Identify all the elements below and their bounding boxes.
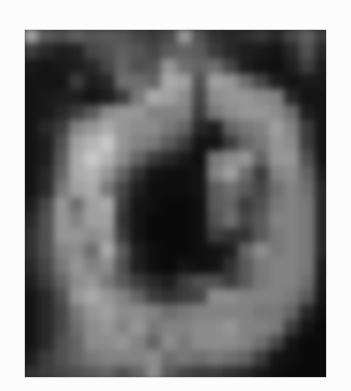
pixel-cell <box>315 89 327 104</box>
pixel-cell <box>130 335 145 350</box>
pixel-cell <box>315 289 327 304</box>
pixel-cell <box>284 181 299 196</box>
pixel-cell <box>84 197 99 212</box>
pixel-cell <box>315 29 327 43</box>
pixel-cell <box>84 29 99 43</box>
pixel-cell <box>284 105 299 120</box>
pixel-cell <box>238 350 253 365</box>
pixel-cell <box>177 243 192 258</box>
pixel-cell <box>130 105 145 120</box>
pixel-cell <box>54 135 69 150</box>
pixel-cell <box>207 243 222 258</box>
pixel-cell <box>146 258 161 273</box>
pixel-cell <box>177 335 192 350</box>
pixel-cell <box>223 289 238 304</box>
pixel-cell <box>69 304 84 319</box>
pixel-cell <box>54 29 69 43</box>
pixel-cell <box>299 335 314 350</box>
pixel-cell <box>299 350 314 365</box>
pixel-cell <box>315 59 327 74</box>
pixel-cell <box>161 274 176 289</box>
pixel-cell <box>192 212 207 227</box>
pixel-cell <box>177 197 192 212</box>
pixel-cell <box>192 181 207 196</box>
pixel-cell <box>146 29 161 43</box>
pixel-cell <box>38 350 53 365</box>
pixel-cell <box>299 304 314 319</box>
pixel-cell <box>69 197 84 212</box>
pixel-cell <box>315 350 327 365</box>
pixel-cell <box>130 197 145 212</box>
pixel-cell <box>69 366 84 378</box>
pixel-cell <box>284 166 299 181</box>
pixel-cell <box>115 166 130 181</box>
pixel-cell <box>284 289 299 304</box>
pixel-cell <box>177 151 192 166</box>
pixel-cell <box>223 212 238 227</box>
pixel-cell <box>192 74 207 89</box>
pixel-cell <box>207 274 222 289</box>
pixel-cell <box>161 74 176 89</box>
pixel-cell <box>269 29 284 43</box>
pixel-cell <box>284 228 299 243</box>
pixel-cell <box>84 350 99 365</box>
pixel-cell <box>253 74 268 89</box>
pixel-cell <box>24 289 38 304</box>
pixel-cell <box>54 212 69 227</box>
pixel-cell <box>284 243 299 258</box>
pixel-cell <box>115 304 130 319</box>
pixel-cell <box>269 320 284 335</box>
pixel-cell <box>54 366 69 378</box>
pixel-cell <box>238 366 253 378</box>
pixel-cell <box>192 274 207 289</box>
pixel-cell <box>299 274 314 289</box>
pixel-cell <box>299 181 314 196</box>
pixel-cell <box>38 197 53 212</box>
pixel-cell <box>24 43 38 58</box>
pixel-cell <box>84 151 99 166</box>
pixel-cell <box>130 366 145 378</box>
pixel-cell <box>223 274 238 289</box>
pixel-cell <box>24 335 38 350</box>
pixel-cell <box>115 335 130 350</box>
pixel-cell <box>269 228 284 243</box>
pixel-cell <box>315 197 327 212</box>
pixel-cell <box>115 289 130 304</box>
pixel-cell <box>84 320 99 335</box>
pixel-cell <box>253 243 268 258</box>
pixel-cell <box>24 366 38 378</box>
pixel-cell <box>100 59 115 74</box>
pixel-cell <box>299 166 314 181</box>
pixel-cell <box>192 120 207 135</box>
pixel-cell <box>207 335 222 350</box>
pixel-cell <box>84 135 99 150</box>
pixel-cell <box>238 89 253 104</box>
pixel-cell <box>38 212 53 227</box>
pixel-cell <box>54 89 69 104</box>
pixel-cell <box>115 228 130 243</box>
pixel-cell <box>161 151 176 166</box>
pixel-cell <box>24 197 38 212</box>
pixel-cell <box>24 105 38 120</box>
pixel-cell <box>192 304 207 319</box>
pixel-cell <box>69 320 84 335</box>
pixel-cell <box>54 43 69 58</box>
pixel-cell <box>177 350 192 365</box>
pixel-cell <box>253 228 268 243</box>
pixel-cell <box>299 366 314 378</box>
pixel-cell <box>315 366 327 378</box>
pixel-cell <box>100 105 115 120</box>
pixel-cell <box>223 135 238 150</box>
pixel-cell <box>299 228 314 243</box>
pixel-cell <box>207 320 222 335</box>
pixel-cell <box>269 350 284 365</box>
pixel-cell <box>84 89 99 104</box>
pixel-cell <box>269 166 284 181</box>
pixel-cell <box>54 197 69 212</box>
pixel-cell <box>315 181 327 196</box>
pixel-cell <box>24 89 38 104</box>
pixel-cell <box>238 228 253 243</box>
pixel-cell <box>115 89 130 104</box>
pixel-cell <box>38 366 53 378</box>
pixel-cell <box>161 258 176 273</box>
